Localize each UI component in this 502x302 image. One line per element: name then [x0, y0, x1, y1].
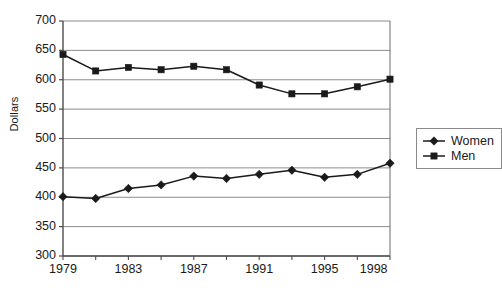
data-point-marker	[256, 82, 262, 88]
data-point-marker	[353, 170, 361, 178]
data-point-marker	[430, 136, 438, 144]
data-point-marker	[387, 76, 393, 82]
data-point-marker	[60, 51, 66, 57]
square-marker-icon	[422, 150, 446, 162]
data-point-marker	[124, 184, 132, 192]
diamond-marker-icon	[422, 135, 446, 147]
legend-label: Men	[451, 149, 475, 163]
legend-item-men[interactable]: Men	[422, 148, 494, 163]
data-point-marker	[92, 194, 100, 202]
data-point-marker	[320, 173, 328, 181]
data-point-marker	[93, 68, 99, 74]
chart-legend: WomenMen	[416, 128, 502, 169]
legend-label: Women	[451, 134, 494, 148]
data-point-marker	[354, 84, 360, 90]
data-point-marker	[157, 181, 165, 189]
data-point-marker	[223, 67, 229, 73]
data-point-marker	[191, 63, 197, 69]
legend-item-women[interactable]: Women	[422, 133, 494, 148]
series-men	[60, 51, 393, 97]
data-point-marker	[386, 159, 394, 167]
data-point-marker	[158, 67, 164, 73]
data-point-marker	[255, 170, 263, 178]
data-point-marker	[190, 172, 198, 180]
data-point-marker	[59, 192, 67, 200]
data-point-marker	[431, 152, 437, 158]
data-point-marker	[125, 64, 131, 70]
series-line	[63, 54, 390, 93]
data-point-marker	[288, 166, 296, 174]
data-point-marker	[289, 91, 295, 97]
data-point-marker	[222, 174, 230, 182]
data-point-marker	[322, 91, 328, 97]
series-women	[59, 159, 394, 203]
